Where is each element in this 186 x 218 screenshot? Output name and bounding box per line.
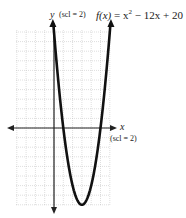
graph-canvas [0,0,186,218]
curve-arrow-left-icon [49,19,56,27]
y-axis-arrow-down-icon [51,207,57,214]
y-scale-label: (scl = 2) [59,10,86,19]
x-axis-label: x [120,121,124,132]
y-axis-label: y [50,9,54,20]
function-eq: = x [111,9,128,21]
x-axis-arrow-left-icon [7,125,14,131]
x-axis-arrow-right-icon [110,125,117,131]
function-rest: − 12x + 20 [132,9,183,21]
function-label: f(x) = x2 − 12x + 20 [96,8,183,21]
function-lhs: f(x) [96,9,111,21]
x-scale-label: (scl = 2) [110,134,137,143]
